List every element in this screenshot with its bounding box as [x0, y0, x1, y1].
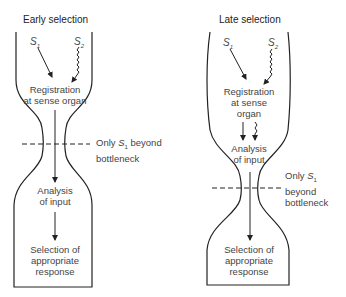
early-s2-label: S2: [74, 36, 84, 49]
note-line: Only S1: [285, 170, 328, 186]
s1-text: S: [223, 37, 230, 48]
stage-line: at sense: [209, 97, 289, 108]
late-s2-label: S2: [268, 37, 278, 50]
early-selection-stage: Selection of appropriate response: [14, 244, 96, 277]
late-registration-stage: Registration at sense organ: [209, 86, 289, 119]
s2-sub: 2: [81, 43, 84, 49]
s1-sub: 1: [37, 43, 40, 49]
stage-line: Registration: [14, 84, 96, 95]
stage-line: of input: [209, 154, 289, 165]
early-analysis-stage: Analysis of input: [14, 185, 96, 207]
note-text: Only: [96, 137, 118, 148]
s1-sub: 1: [230, 44, 233, 50]
early-bottleneck-note: Only S1 beyond bottleneck: [96, 137, 162, 164]
late-selection-stage: Selection of appropriate response: [209, 244, 289, 277]
note-line: Only S1 beyond: [96, 137, 162, 153]
s2-text: S: [268, 37, 275, 48]
stage-line: Selection of: [14, 244, 96, 255]
stage-line: appropriate: [209, 255, 289, 266]
stage-line: Registration: [209, 86, 289, 97]
stage-line: response: [14, 266, 96, 277]
late-bottleneck-note: Only S1 beyond bottleneck: [285, 170, 328, 208]
early-s1-label: S1: [30, 36, 40, 49]
note-sub: 1: [314, 177, 317, 183]
late-analysis-stage: Analysis of input: [209, 143, 289, 165]
note-text: Only: [285, 170, 307, 181]
stage-line: of input: [14, 196, 96, 207]
stage-line: appropriate: [14, 255, 96, 266]
note-line: bottleneck: [285, 197, 328, 208]
early-selection-title: Early selection: [23, 14, 88, 25]
note-text: beyond: [128, 137, 162, 148]
stage-line: organ: [209, 108, 289, 119]
stage-line: Analysis: [14, 185, 96, 196]
s1-text: S: [30, 36, 37, 47]
stage-line: at sense organ: [14, 95, 96, 106]
s2-text: S: [74, 36, 81, 47]
stage-line: response: [209, 266, 289, 277]
note-line: beyond: [285, 186, 328, 197]
early-registration-stage: Registration at sense organ: [14, 84, 96, 106]
late-s1-label: S1: [223, 37, 233, 50]
stage-line: Selection of: [209, 244, 289, 255]
s2-sub: 2: [275, 44, 278, 50]
stage-line: Analysis: [209, 143, 289, 154]
note-line: bottleneck: [96, 153, 162, 164]
late-selection-title: Late selection: [219, 14, 281, 25]
